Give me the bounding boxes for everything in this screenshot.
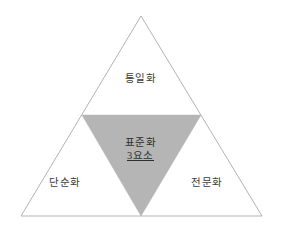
label-unification: 통일화 <box>0 72 281 85</box>
label-three-elements: 3요소 <box>0 149 281 162</box>
label-specialization: 전문화 <box>174 176 240 189</box>
label-simplification: 단순화 <box>34 176 96 189</box>
label-standardization-three-elements: 표준화 3요소 <box>0 136 281 162</box>
label-standardization: 표준화 <box>0 136 281 149</box>
diagram-canvas: 통일화 표준화 3요소 단순화 전문화 <box>0 0 281 233</box>
triangle-diagram-svg <box>0 0 281 233</box>
